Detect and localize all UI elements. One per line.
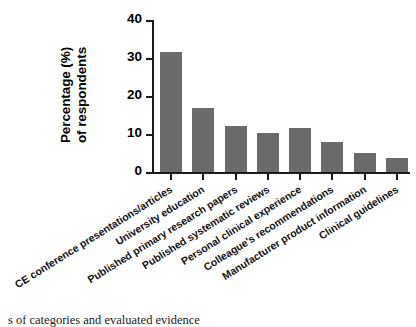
figure-caption: s of categories and evaluated evidence — [8, 313, 408, 327]
y-axis-tick: 10 — [146, 134, 153, 136]
bar — [257, 133, 279, 172]
bar — [321, 142, 343, 172]
y-axis-tick: 40 — [146, 20, 153, 22]
y-axis-tick: 0 — [146, 172, 153, 174]
x-axis-line — [152, 172, 410, 174]
y-axis-title-line-2: of respondents — [74, 47, 90, 143]
bar — [225, 126, 247, 172]
bar — [160, 52, 182, 172]
y-axis-title: Percentage (%) of respondents — [52, 16, 96, 174]
bar — [192, 108, 214, 172]
y-axis-tick-label: 10 — [127, 125, 142, 141]
x-axis-tick — [202, 174, 204, 180]
x-axis-tick — [170, 174, 172, 180]
y-axis-title-line-1: Percentage (%) — [58, 47, 74, 143]
y-axis-tick-label: 30 — [127, 49, 142, 65]
bar — [386, 158, 408, 172]
y-axis-tick-label: 0 — [134, 163, 142, 179]
y-axis-tick: 30 — [146, 58, 153, 60]
bar — [354, 153, 376, 172]
y-axis-tick: 20 — [146, 96, 153, 98]
figure-bar-chart: Percentage (%) of respondents 010203040 … — [0, 0, 416, 327]
bar — [289, 128, 311, 172]
x-axis-tick — [299, 174, 301, 180]
y-axis-tick-label: 20 — [127, 87, 142, 103]
x-axis-tick — [396, 174, 398, 180]
y-axis-tick-label: 40 — [127, 11, 142, 27]
x-axis-tick — [331, 174, 333, 180]
x-axis-tick — [364, 174, 366, 180]
x-axis-tick — [235, 174, 237, 180]
x-axis-tick — [267, 174, 269, 180]
plot-area: 010203040 — [152, 20, 410, 172]
